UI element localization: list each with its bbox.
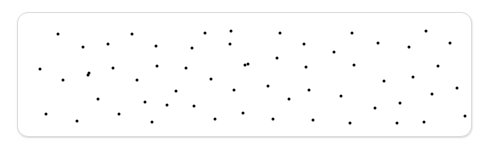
- scatter-dot: [233, 89, 236, 92]
- scatter-dot: [175, 90, 178, 93]
- scatter-dot: [82, 46, 85, 49]
- scatter-dot: [437, 65, 440, 68]
- scatter-dot: [107, 43, 110, 46]
- scatter-dot: [353, 64, 356, 67]
- scatter-dot: [399, 102, 402, 105]
- scatter-dot: [408, 46, 411, 49]
- scatter-dot: [144, 101, 147, 104]
- scatter-dot: [279, 32, 282, 35]
- scatter-dot: [449, 42, 452, 45]
- dot-pattern-panel[interactable]: [17, 12, 472, 137]
- scatter-dot: [374, 107, 377, 110]
- scatter-dot: [312, 119, 315, 122]
- scatter-dot: [464, 115, 467, 118]
- scatter-dot: [412, 76, 415, 79]
- scatter-dot: [396, 122, 399, 125]
- scatter-dot: [185, 67, 188, 70]
- scatter-dot: [383, 80, 386, 83]
- scatter-dot: [340, 95, 343, 98]
- scatter-dot: [276, 57, 279, 60]
- scatter-dot: [155, 45, 158, 48]
- scatter-dot: [191, 47, 194, 50]
- scatter-dot: [131, 33, 134, 36]
- scatter-dot: [136, 79, 139, 82]
- scatter-dot: [204, 32, 207, 35]
- scatter-dot: [333, 51, 336, 54]
- scatter-dot: [431, 93, 434, 96]
- scatter-dot: [267, 85, 270, 88]
- scatter-dot: [349, 122, 352, 125]
- scatter-dot: [87, 74, 90, 77]
- scatter-dot: [272, 118, 275, 121]
- scatter-dot: [97, 98, 100, 101]
- scatter-dot: [423, 121, 426, 124]
- scatter-dot: [45, 113, 48, 116]
- scatter-dot: [156, 65, 159, 68]
- scatter-dot: [288, 98, 291, 101]
- scatter-dot: [456, 87, 459, 90]
- scatter-dot: [210, 78, 213, 81]
- scatter-dot: [377, 42, 380, 45]
- scatter-dot: [193, 105, 196, 108]
- scatter-dot: [39, 68, 42, 71]
- scatter-dot: [112, 67, 115, 70]
- scatter-dot: [214, 118, 217, 121]
- scatter-dot: [308, 89, 311, 92]
- scatter-dot: [305, 66, 308, 69]
- scatter-dot: [229, 43, 232, 46]
- scatter-dot: [57, 33, 60, 36]
- scatter-dot: [425, 30, 428, 33]
- scatter-dot: [118, 113, 121, 116]
- scatter-dot: [247, 63, 250, 66]
- scatter-dot: [166, 104, 169, 107]
- scatter-dot: [151, 121, 154, 124]
- stimulus-root: [0, 0, 485, 148]
- dot-field: [18, 13, 471, 136]
- scatter-dot: [62, 79, 65, 82]
- scatter-dot: [351, 32, 354, 35]
- scatter-dot: [303, 43, 306, 46]
- scatter-dot: [230, 30, 233, 33]
- scatter-dot: [242, 112, 245, 115]
- scatter-dot: [76, 120, 79, 123]
